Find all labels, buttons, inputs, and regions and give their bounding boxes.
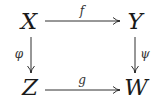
label-phi: φ (15, 48, 23, 60)
label-f: f (80, 5, 84, 17)
node-z: Z (22, 76, 38, 99)
label-psi: ψ (140, 48, 149, 60)
node-w: W (124, 76, 148, 99)
label-g: g (78, 74, 86, 86)
node-x: X (21, 10, 37, 33)
node-y: Y (127, 10, 142, 33)
